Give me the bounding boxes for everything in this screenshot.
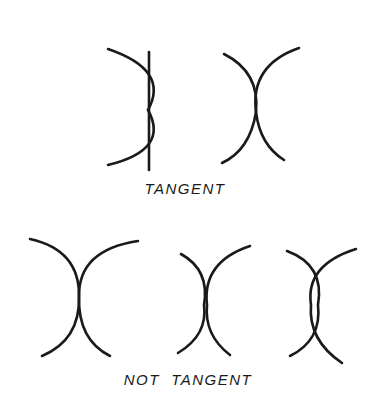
arc xyxy=(108,49,154,165)
figure-arcs-crossing xyxy=(30,239,138,356)
label-not-tangent: NOT TANGENT xyxy=(124,371,253,388)
arc-left xyxy=(287,251,319,356)
tangency-diagram xyxy=(0,0,381,413)
label-tangent: TANGENT xyxy=(144,180,225,197)
arc-right xyxy=(207,246,250,355)
arc-left xyxy=(224,54,284,160)
arc-right xyxy=(222,48,299,163)
arc-left xyxy=(178,254,205,353)
arc-left xyxy=(30,239,79,356)
figure-arcs-overlapping xyxy=(287,249,356,363)
figure-arc-tangent-to-line xyxy=(108,49,154,170)
figure-two-arcs-tangent xyxy=(222,48,299,163)
arc-right xyxy=(79,241,138,356)
figure-arcs-separate xyxy=(178,246,250,355)
